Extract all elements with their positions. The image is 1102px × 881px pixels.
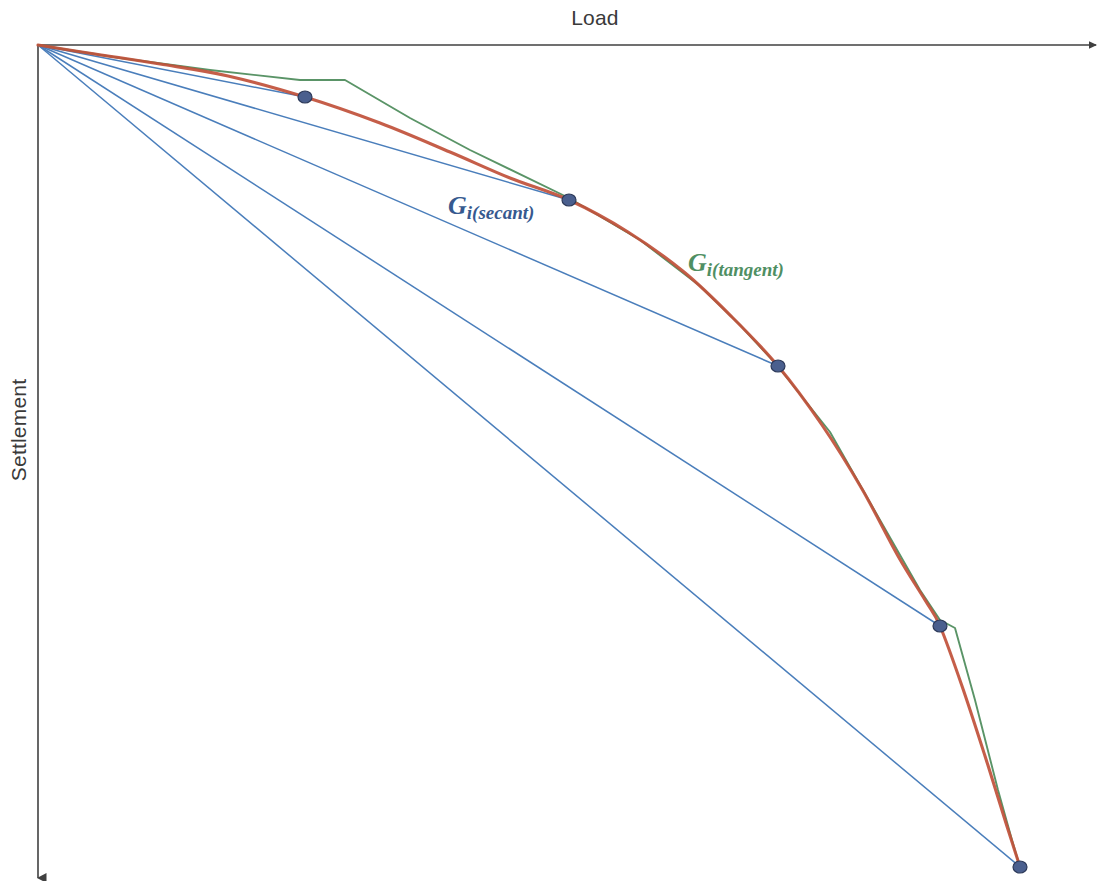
secant-line-5 <box>38 45 1020 867</box>
x-axis-label: Load <box>571 6 619 29</box>
data-point-1 <box>298 91 312 103</box>
load-settlement-figure: Load Settlement Gi(secant) Gi(tangent) <box>0 0 1102 881</box>
secant-label-base: G <box>448 191 467 220</box>
secant-lines-group <box>38 45 1020 867</box>
plot-canvas: Load Settlement Gi(secant) Gi(tangent) <box>0 0 1102 881</box>
secant-line-2 <box>38 45 569 200</box>
data-point-2 <box>562 194 576 206</box>
tangent-label-subscript: i(tangent) <box>707 259 784 281</box>
secant-label: Gi(secant) <box>448 191 534 224</box>
axes-group <box>38 45 1096 878</box>
tangent-label: Gi(tangent) <box>688 248 784 281</box>
secant-line-4 <box>38 45 940 626</box>
data-point-3 <box>771 360 785 372</box>
data-point-4 <box>933 620 947 632</box>
data-point-markers <box>298 91 1027 873</box>
secant-line-3 <box>38 45 778 366</box>
data-point-5 <box>1013 861 1027 873</box>
tangent-label-base: G <box>688 248 707 277</box>
secant-label-subscript: i(secant) <box>467 202 535 224</box>
y-axis-label: Settlement <box>7 379 30 481</box>
